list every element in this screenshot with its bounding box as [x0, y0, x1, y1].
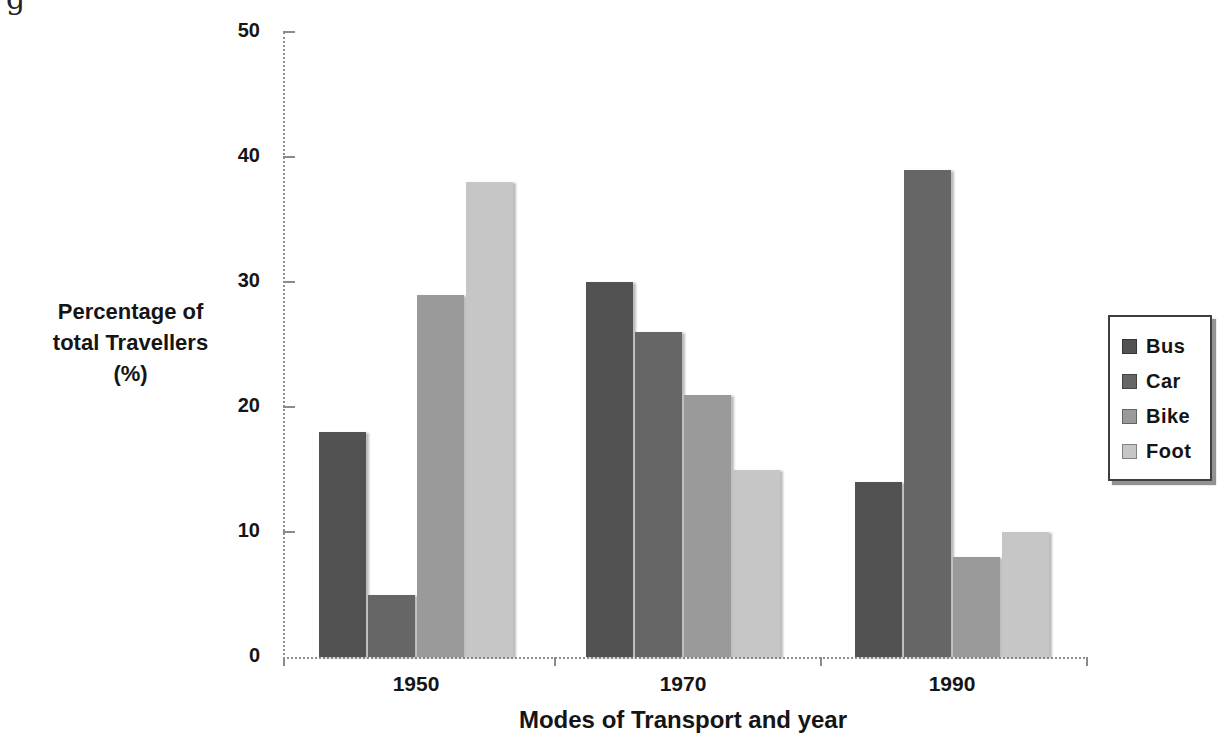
bar-foot-1970 [733, 470, 780, 658]
legend-swatch-foot [1122, 444, 1137, 459]
y-axis-tick-label-30: 30 [185, 269, 260, 292]
legend: BusCarBikeFoot [1108, 315, 1212, 481]
y-axis-title-line-1: Percentage of [8, 296, 253, 327]
bar-bus-1970 [586, 282, 633, 657]
y-axis-tick-label-10: 10 [185, 519, 260, 542]
legend-swatch-bike [1122, 409, 1137, 424]
y-axis-tick-label-20: 20 [185, 394, 260, 417]
chart-canvas: g Percentage of total Travellers (%) 010… [0, 0, 1226, 753]
bar-bus-1950 [319, 432, 366, 657]
y-axis-tick-20 [283, 406, 295, 408]
bar-foot-1950 [466, 182, 513, 657]
x-axis-category-label-1990: 1990 [892, 672, 1012, 696]
y-axis-title-line-2: total Travellers [8, 327, 253, 358]
plot-area: 01020304050195019701990 [283, 32, 1085, 659]
y-axis-tick-40 [283, 156, 295, 158]
legend-label-car: Car [1146, 370, 1181, 393]
legend-item-bus: Bus [1122, 329, 1210, 364]
legend-item-car: Car [1122, 364, 1210, 399]
legend-label-bus: Bus [1146, 335, 1185, 358]
x-axis-tick-1 [554, 657, 556, 666]
x-axis-category-label-1970: 1970 [623, 672, 743, 696]
y-axis-tick-label-0: 0 [185, 644, 260, 667]
y-axis-tick-label-50: 50 [185, 19, 260, 42]
bar-bike-1950 [417, 295, 464, 658]
x-axis-tick-2 [820, 657, 822, 666]
y-axis-tick-50 [283, 31, 295, 33]
legend-item-bike: Bike [1122, 399, 1210, 434]
bar-car-1970 [635, 332, 682, 657]
legend-label-foot: Foot [1146, 440, 1191, 463]
x-axis-category-label-1950: 1950 [356, 672, 476, 696]
bar-car-1990 [904, 170, 951, 658]
legend-swatch-car [1122, 374, 1137, 389]
bar-foot-1990 [1002, 532, 1049, 657]
x-axis-tick-3 [1086, 657, 1088, 666]
x-axis-title: Modes of Transport and year [423, 706, 943, 734]
legend-items: BusCarBikeFoot [1122, 329, 1210, 469]
cropped-caption-fragment: g [6, 0, 25, 16]
legend-item-foot: Foot [1122, 434, 1210, 469]
y-axis-title-line-3: (%) [8, 358, 253, 389]
y-axis-tick-label-40: 40 [185, 144, 260, 167]
bar-bike-1990 [953, 557, 1000, 657]
bar-bike-1970 [684, 395, 731, 658]
bar-bus-1990 [855, 482, 902, 657]
legend-swatch-bus [1122, 339, 1137, 354]
y-axis-tick-10 [283, 531, 295, 533]
x-axis-tick-0 [283, 657, 285, 666]
y-axis-title: Percentage of total Travellers (%) [8, 296, 253, 389]
y-axis-tick-30 [283, 281, 295, 283]
legend-label-bike: Bike [1146, 405, 1190, 428]
bar-car-1950 [368, 595, 415, 658]
